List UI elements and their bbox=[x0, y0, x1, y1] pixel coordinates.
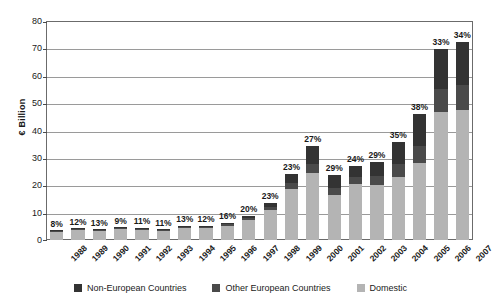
bar-percent-label-1995: 12% bbox=[198, 215, 215, 224]
bar-percent-label-1993: 11% bbox=[155, 219, 172, 228]
bar-segment-domestic-1994 bbox=[178, 228, 191, 240]
legend-item-2[interactable]: Domestic bbox=[357, 283, 408, 293]
bar-percent-label-2003: 29% bbox=[368, 151, 385, 160]
x-tick-label-2007: 2007 bbox=[474, 243, 494, 263]
bar-group-1996: 16% bbox=[217, 21, 238, 240]
bar-segment-domestic-1989 bbox=[71, 230, 84, 240]
bar-segment-non-european-countries-2006 bbox=[434, 49, 447, 90]
bar-stack-2003: 29% bbox=[370, 162, 383, 240]
bar-percent-label-1990: 13% bbox=[91, 219, 108, 228]
bar-segment-domestic-1991 bbox=[114, 229, 127, 240]
bar-segment-other-european-countries-2005 bbox=[413, 146, 426, 163]
legend-label-2: Domestic bbox=[370, 283, 408, 293]
bar-segment-other-european-countries-2003 bbox=[370, 176, 383, 185]
bar-segment-non-european-countries-2000 bbox=[306, 146, 319, 164]
bar-group-2007: 34% bbox=[452, 21, 473, 240]
x-axis-tick-labels: 1988198919901991199219931994199519961997… bbox=[46, 241, 473, 281]
bar-segment-non-european-countries-2002 bbox=[349, 166, 362, 177]
bar-segment-domestic-2006 bbox=[434, 112, 447, 240]
x-tick-label-1993: 1993 bbox=[175, 243, 195, 263]
bar-group-2001: 29% bbox=[324, 21, 345, 240]
bar-group-1991: 9% bbox=[110, 21, 131, 240]
bar-group-1993: 11% bbox=[153, 21, 174, 240]
bar-segment-non-european-countries-2007 bbox=[456, 42, 469, 85]
bar-segment-domestic-2005 bbox=[413, 163, 426, 240]
bar-stack-2002: 24% bbox=[349, 166, 362, 240]
bar-percent-label-1988: 8% bbox=[51, 220, 63, 229]
bar-segment-other-european-countries-2004 bbox=[392, 164, 405, 176]
x-tick-label-2006: 2006 bbox=[452, 243, 472, 263]
bar-percent-label-1996: 16% bbox=[219, 212, 236, 221]
bar-segment-non-european-countries-1999 bbox=[285, 174, 298, 183]
legend-swatch-other-european bbox=[212, 284, 220, 292]
bar-group-1989: 12% bbox=[67, 21, 88, 240]
bar-segment-domestic-1990 bbox=[93, 231, 106, 240]
x-tick-label-2005: 2005 bbox=[431, 243, 451, 263]
bar-segment-non-european-countries-2005 bbox=[413, 114, 426, 145]
bars-layer: 8%12%13%9%11%11%13%12%16%20%23%23%27%29%… bbox=[46, 21, 473, 240]
bar-percent-label-1991: 9% bbox=[115, 217, 127, 226]
y-axis-tick-labels: 01020304050607080 bbox=[18, 14, 42, 240]
legend-swatch-domestic bbox=[357, 284, 365, 292]
bar-segment-domestic-2003 bbox=[370, 185, 383, 240]
bar-percent-label-2000: 27% bbox=[304, 135, 321, 144]
bar-stack-1988: 8% bbox=[50, 230, 63, 240]
y-tick-label-40: 40 bbox=[18, 126, 42, 135]
legend-item-0[interactable]: Non-European Countries bbox=[74, 283, 187, 293]
y-tick-label-60: 60 bbox=[18, 71, 42, 80]
x-tick-label-2002: 2002 bbox=[367, 243, 387, 263]
bar-segment-domestic-2004 bbox=[392, 177, 405, 240]
x-tick-label-1991: 1991 bbox=[132, 243, 152, 263]
y-tick-label-0: 0 bbox=[18, 236, 42, 245]
x-tick-label-1992: 1992 bbox=[154, 243, 174, 263]
x-tick-label-1999: 1999 bbox=[303, 243, 323, 263]
bar-segment-domestic-2000 bbox=[306, 173, 319, 240]
bar-percent-label-2005: 38% bbox=[411, 103, 428, 112]
x-tick-label-2004: 2004 bbox=[410, 243, 430, 263]
bar-group-1988: 8% bbox=[46, 21, 67, 240]
bar-segment-domestic-2007 bbox=[456, 110, 469, 240]
bar-stack-2004: 35% bbox=[392, 142, 405, 240]
bar-stack-2005: 38% bbox=[413, 114, 426, 240]
bar-segment-domestic-1996 bbox=[221, 226, 234, 240]
y-tick-label-50: 50 bbox=[18, 99, 42, 108]
bar-percent-label-1994: 13% bbox=[176, 215, 193, 224]
bar-percent-label-2007: 34% bbox=[454, 31, 471, 40]
legend-label-0: Non-European Countries bbox=[87, 283, 187, 293]
x-tick-label-1988: 1988 bbox=[68, 243, 88, 263]
y-tick-label-30: 30 bbox=[18, 153, 42, 162]
bar-percent-label-2001: 29% bbox=[326, 164, 343, 173]
y-tick-label-80: 80 bbox=[18, 17, 42, 26]
bar-segment-domestic-1997 bbox=[242, 220, 255, 240]
bar-stack-1991: 9% bbox=[114, 227, 127, 240]
bar-stack-1989: 12% bbox=[71, 228, 84, 240]
bar-percent-label-1989: 12% bbox=[69, 218, 86, 227]
bar-percent-label-1992: 11% bbox=[134, 217, 151, 226]
bar-group-2005: 38% bbox=[409, 21, 430, 240]
bar-percent-label-1997: 20% bbox=[240, 205, 257, 214]
bar-segment-domestic-1988 bbox=[50, 232, 63, 240]
bar-percent-label-1998: 23% bbox=[262, 192, 279, 201]
bar-stack-2007: 34% bbox=[456, 42, 469, 240]
y-tick-label-20: 20 bbox=[18, 181, 42, 190]
x-tick-label-2000: 2000 bbox=[324, 243, 344, 263]
bar-stack-1995: 12% bbox=[199, 226, 212, 240]
x-tick-label-1990: 1990 bbox=[111, 243, 131, 263]
bar-segment-non-european-countries-2004 bbox=[392, 142, 405, 165]
bar-stack-1990: 13% bbox=[93, 229, 106, 240]
x-tick-label-1995: 1995 bbox=[218, 243, 238, 263]
bar-group-2004: 35% bbox=[388, 21, 409, 240]
bar-stack-2001: 29% bbox=[328, 175, 341, 240]
bar-segment-other-european-countries-2000 bbox=[306, 164, 319, 173]
legend-item-1[interactable]: Other European Countries bbox=[212, 283, 330, 293]
bar-stack-2006: 33% bbox=[434, 49, 447, 240]
bar-group-2006: 33% bbox=[430, 21, 451, 240]
bar-stack-1998: 23% bbox=[264, 203, 277, 240]
bar-segment-domestic-2001 bbox=[328, 195, 341, 240]
bar-group-1999: 23% bbox=[281, 21, 302, 240]
bar-segment-other-european-countries-2002 bbox=[349, 177, 362, 185]
bar-percent-label-2002: 24% bbox=[347, 155, 364, 164]
bar-group-1990: 13% bbox=[89, 21, 110, 240]
bar-segment-other-european-countries-2007 bbox=[456, 85, 469, 110]
bar-percent-label-2004: 35% bbox=[390, 131, 407, 140]
